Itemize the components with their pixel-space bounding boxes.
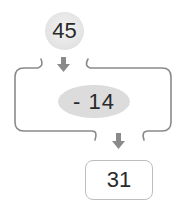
operation-ellipse: - 14 [58, 85, 130, 118]
operation-label: - 14 [73, 89, 115, 115]
arrow-down-icon [112, 133, 125, 149]
result-value: 31 [107, 167, 131, 193]
start-value: 45 [52, 18, 76, 44]
start-value-circle: 45 [45, 12, 84, 50]
result-box: 31 [85, 160, 153, 200]
arrow-down-icon [57, 57, 70, 72]
